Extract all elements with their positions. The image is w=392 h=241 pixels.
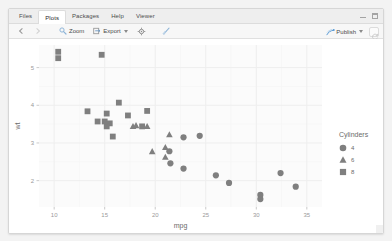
window-controls [359, 12, 379, 20]
plots-window: Files Plots Packages Help Viewer [8, 8, 384, 234]
data-point-square [110, 134, 116, 140]
data-point-square [85, 108, 91, 114]
refresh-button[interactable] [369, 27, 379, 37]
gear-icon [137, 27, 145, 35]
clear-plots-button[interactable] [159, 26, 173, 36]
tab-files[interactable]: Files [13, 9, 38, 23]
forward-arrow-icon [34, 27, 42, 35]
scatter-plot: 1015202530352345mpgwtCylinders468 [9, 39, 384, 234]
forward-button[interactable] [31, 26, 45, 36]
data-point-square [102, 119, 108, 125]
toolbar-right-group: Publish [323, 24, 379, 39]
data-point-circle [257, 196, 263, 202]
data-point-circle [197, 133, 203, 139]
maximize-pane-icon[interactable] [371, 12, 379, 20]
export-button-label: Export [103, 28, 120, 34]
data-point-circle [167, 160, 173, 166]
publish-icon [326, 28, 334, 36]
data-point-circle [226, 180, 232, 186]
legend-entry-label: 6 [351, 157, 355, 163]
rstudio-plots-pane: Files Plots Packages Help Viewer [0, 0, 392, 241]
legend-title: Cylinders [339, 131, 369, 139]
data-point-square [99, 52, 105, 58]
data-point-square [144, 108, 150, 114]
legend-entry-label: 4 [351, 145, 355, 151]
data-point-circle [180, 134, 186, 140]
back-arrow-icon [17, 27, 25, 35]
legend-key-triangle [340, 156, 347, 163]
zoom-button[interactable]: Zoom [56, 26, 87, 36]
y-tick-label: 2 [31, 178, 35, 184]
chevron-down-icon [124, 30, 128, 33]
export-icon [93, 27, 101, 35]
y-tick-label: 5 [31, 65, 35, 71]
data-point-circle [277, 170, 283, 176]
back-button[interactable] [14, 26, 28, 36]
resize-grip[interactable] [376, 225, 384, 234]
legend-entry-label: 8 [351, 169, 355, 175]
legend-key-square [340, 169, 346, 175]
tab-packages[interactable]: Packages [66, 9, 105, 23]
x-tick-label: 30 [253, 212, 260, 218]
legend-key-circle [340, 145, 347, 152]
y-tick-label: 4 [31, 102, 35, 108]
data-point-circle [180, 165, 186, 171]
data-point-square [116, 100, 122, 106]
tab-viewer[interactable]: Viewer [130, 9, 161, 23]
legend: Cylinders468 [339, 131, 369, 175]
publish-button[interactable]: Publish [323, 27, 366, 37]
data-point-square [139, 123, 145, 129]
y-axis-title: wt [14, 122, 21, 130]
export-button[interactable]: Export [90, 26, 130, 36]
data-point-square [125, 113, 131, 119]
data-point-circle [293, 184, 299, 190]
data-point-square [55, 49, 61, 55]
data-point-square [55, 55, 61, 61]
x-axis-title: mpg [174, 222, 188, 230]
tab-help[interactable]: Help [105, 9, 130, 23]
publish-chevron-down-icon [359, 30, 363, 33]
data-point-square [95, 119, 101, 125]
broom-icon [162, 27, 170, 35]
plot-canvas[interactable]: 1015202530352345mpgwtCylinders468 [9, 39, 384, 234]
x-tick-label: 35 [303, 212, 310, 218]
tab-plots[interactable]: Plots [38, 10, 66, 24]
remove-plot-button[interactable] [134, 26, 148, 36]
data-point-circle [213, 172, 219, 178]
plots-toolbar: Zoom Export [9, 24, 383, 39]
y-tick-label: 3 [31, 140, 35, 146]
pane-tabstrip: Files Plots Packages Help Viewer [9, 9, 383, 24]
magnifier-icon [59, 27, 67, 35]
x-tick-label: 10 [51, 212, 58, 218]
x-tick-label: 15 [101, 212, 108, 218]
data-point-square [104, 111, 110, 117]
x-tick-label: 25 [202, 212, 209, 218]
minimize-pane-icon[interactable] [359, 12, 367, 20]
zoom-button-label: Zoom [69, 28, 84, 34]
publish-button-label: Publish [336, 29, 356, 35]
x-tick-label: 20 [152, 212, 159, 218]
